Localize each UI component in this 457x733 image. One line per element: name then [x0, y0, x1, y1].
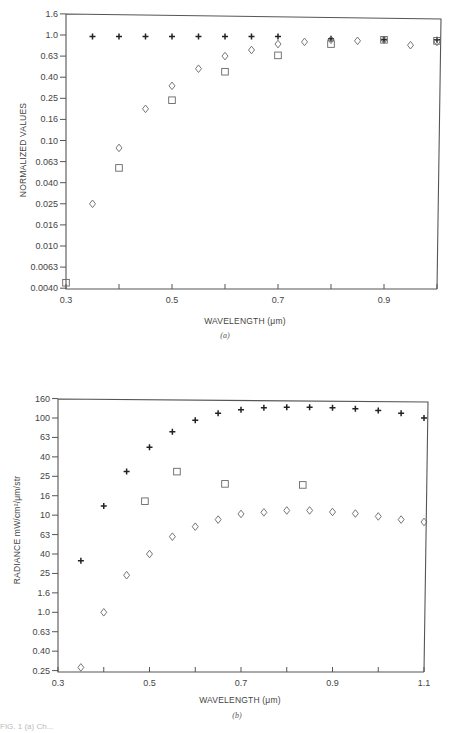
- y-tick-label: 25: [40, 471, 50, 481]
- plus-marker: [421, 415, 427, 421]
- square-marker: [275, 52, 282, 59]
- figure: 1.61.00.630.400.250.160.100.0630.0400.02…: [0, 0, 457, 733]
- plus-marker: [192, 417, 198, 423]
- panel-label-a: (a): [220, 331, 230, 340]
- plus-marker: [116, 33, 122, 39]
- x-tick-label: 0.9: [326, 678, 339, 688]
- x-tick-label: 1.1: [418, 678, 431, 688]
- diamond-marker: [261, 509, 267, 517]
- y-axis-title-b: RADIANCE mW/cm²/μm/str: [12, 476, 22, 584]
- y-axis-ticks-a: 1.61.00.630.400.250.160.100.0630.0400.02…: [30, 9, 66, 293]
- plus-marker: [90, 33, 96, 39]
- plot-frame-b: [58, 399, 428, 672]
- y-tick-label: 40: [40, 452, 50, 462]
- diamond-marker: [222, 52, 228, 60]
- diamond-marker: [249, 46, 255, 54]
- y-tick-label: 1.6: [37, 588, 50, 598]
- data-points-b: [78, 404, 427, 671]
- x-tick-label: 0.3: [52, 678, 65, 688]
- y-tick-label: 0.25: [40, 93, 58, 103]
- y-tick-label: 1.0: [45, 30, 58, 40]
- y-tick-label: 0.040: [35, 178, 58, 188]
- x-tick-label: 0.3: [60, 295, 73, 305]
- diamond-marker: [398, 516, 404, 524]
- y-tick-label: 0.10: [40, 136, 58, 146]
- square-marker: [174, 468, 181, 475]
- y-tick-label: 63: [40, 530, 50, 540]
- plus-marker: [143, 33, 149, 39]
- diamond-marker: [238, 510, 244, 518]
- x-tick-label: 0.7: [272, 295, 285, 305]
- diamond-marker: [302, 38, 308, 46]
- x-tick-label: 0.7: [235, 678, 248, 688]
- y-tick-label: 0.63: [40, 51, 58, 61]
- plus-marker: [169, 429, 175, 435]
- x-axis-ticks-a: 0.30.50.70.9: [60, 284, 437, 305]
- plus-marker: [284, 404, 290, 410]
- y-axis-title-a: NORMALIZED VALUES: [18, 103, 28, 198]
- plus-marker: [307, 404, 313, 410]
- diamond-marker: [169, 82, 175, 90]
- plot-frame-a: [66, 14, 441, 289]
- x-axis-title-a: WAVELENGTH (μm): [204, 316, 286, 326]
- square-marker: [142, 498, 149, 505]
- diamond-marker: [116, 144, 122, 152]
- x-tick-label: 0.9: [378, 295, 391, 305]
- square-marker: [116, 165, 123, 172]
- y-tick-label: 160: [35, 394, 50, 404]
- square-marker: [222, 68, 229, 75]
- y-tick-label: 0.0040: [30, 283, 58, 293]
- plus-marker: [124, 469, 130, 475]
- plus-marker: [238, 407, 244, 413]
- x-axis-title-b: WAVELENGTH (μm): [199, 695, 281, 705]
- chart-panel-b: 16010063402516106340251.61.00.630.400.25…: [12, 394, 430, 720]
- diamond-marker: [275, 40, 281, 48]
- y-tick-label: 16: [40, 491, 50, 501]
- diamond-marker: [355, 37, 361, 45]
- plus-marker: [215, 410, 221, 416]
- diamond-marker: [169, 533, 175, 541]
- plus-marker: [222, 33, 228, 39]
- plus-marker: [249, 33, 255, 39]
- y-tick-label: 40: [40, 549, 50, 559]
- y-tick-label: 10: [40, 510, 50, 520]
- diamond-marker: [101, 609, 107, 617]
- diamond-marker: [147, 550, 153, 558]
- plus-marker: [398, 410, 404, 416]
- y-tick-label: 0.63: [32, 627, 50, 637]
- diamond-marker: [408, 41, 414, 49]
- diamond-marker: [352, 510, 358, 518]
- diamond-marker: [284, 507, 290, 515]
- y-tick-label: 0.40: [40, 72, 58, 82]
- y-tick-label: 1.6: [45, 9, 58, 19]
- plus-marker: [78, 558, 84, 564]
- plus-marker: [381, 37, 387, 43]
- diamond-marker: [215, 516, 221, 524]
- x-tick-label: 0.5: [143, 678, 156, 688]
- panel-label-b: (b): [232, 711, 242, 720]
- y-tick-label: 0.25: [32, 666, 50, 676]
- y-tick-label: 0.010: [35, 241, 58, 251]
- plus-marker: [352, 406, 358, 412]
- y-tick-label: 0.025: [35, 199, 58, 209]
- diamond-marker: [192, 523, 198, 531]
- plus-marker: [261, 405, 267, 411]
- x-axis-ticks-b: 0.30.50.70.91.1: [52, 667, 431, 688]
- square-marker: [169, 97, 176, 104]
- diamond-marker: [375, 513, 381, 521]
- plus-marker: [101, 503, 107, 509]
- chart-panel-a: 1.61.00.630.400.250.160.100.0630.0400.02…: [18, 9, 441, 340]
- square-marker: [222, 481, 229, 488]
- plus-marker: [169, 33, 175, 39]
- diamond-marker: [143, 105, 149, 113]
- figure-caption: FIG. 1 (a) Ch...: [0, 722, 53, 731]
- y-tick-label: 63: [40, 432, 50, 442]
- diamond-marker: [90, 200, 96, 208]
- plus-marker: [375, 407, 381, 413]
- y-tick-label: 1.0: [37, 607, 50, 617]
- y-tick-label: 0.40: [32, 646, 50, 656]
- diamond-marker: [124, 571, 130, 579]
- diamond-marker: [196, 65, 202, 73]
- plus-marker: [330, 405, 336, 411]
- y-tick-label: 100: [35, 413, 50, 423]
